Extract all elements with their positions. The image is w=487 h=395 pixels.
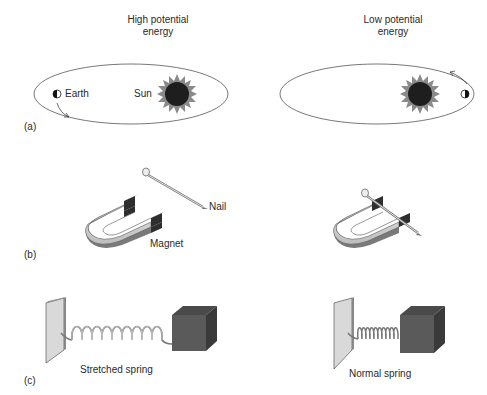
sun-icon [400, 74, 440, 114]
earth-label: Earth [65, 88, 89, 100]
magnet-label: Magnet [150, 238, 183, 250]
block-icon [400, 306, 445, 353]
panel-b-tag: (b) [24, 249, 36, 261]
panel-a-tag: (a) [24, 121, 36, 133]
stretched-spring-icon-inner [72, 327, 162, 341]
normal-spring-icon [348, 328, 398, 339]
sun-icon [157, 74, 197, 114]
orbit-ellipse [280, 64, 474, 124]
earth-icon [461, 90, 469, 98]
wall-plate-icon [46, 297, 66, 363]
right-orbit-diagram [280, 64, 474, 124]
diagram-canvas [0, 0, 487, 395]
nail-label: Nail [209, 201, 226, 213]
panel-c-tag: (c) [24, 375, 36, 387]
block-icon [172, 306, 217, 351]
normal-spring-label: Normal spring [349, 368, 411, 380]
orbit-direction-arrow-icon [57, 103, 69, 117]
stretched-spring-label: Stretched spring [80, 364, 153, 376]
nail-icon [143, 168, 209, 209]
earth-icon [53, 90, 61, 98]
left-orbit-diagram [34, 64, 228, 124]
sun-label: Sun [134, 88, 152, 100]
wall-plate-icon [334, 297, 354, 369]
horseshoe-magnet-icon [333, 196, 410, 248]
figure-root: High potential energy Low potential ener… [0, 0, 487, 395]
stretched-spring-icon [61, 327, 172, 345]
orbit-ellipse [34, 64, 228, 124]
